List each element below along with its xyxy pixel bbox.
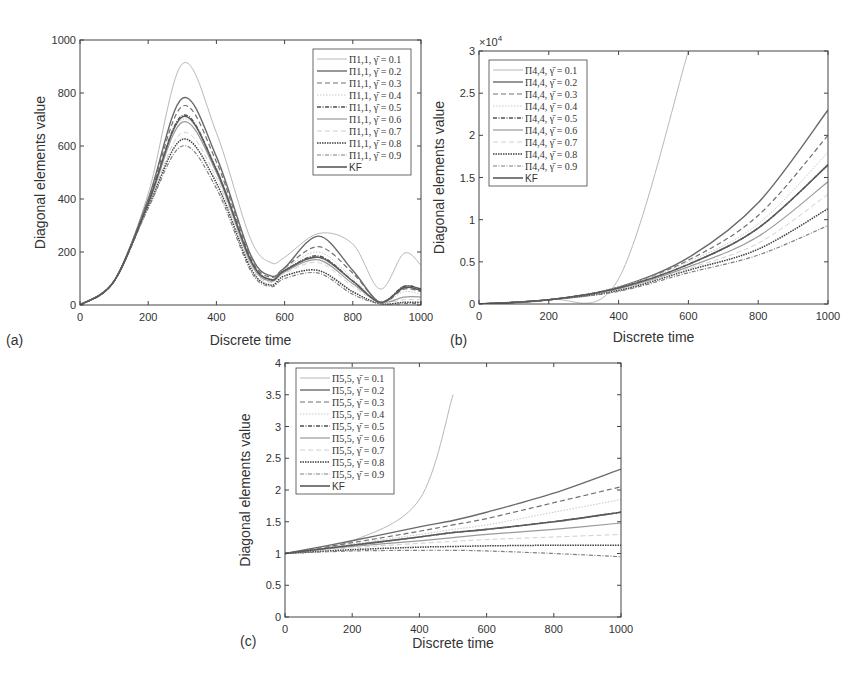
y-axis-label: Diagonal elements value	[32, 96, 48, 250]
x-axis-label: Discrete time	[412, 635, 494, 651]
legend-entry: Π5,5, γ̄ = 0.3	[332, 397, 384, 408]
y-tick-label: 400	[58, 193, 76, 205]
x-tick-label: 400	[207, 311, 225, 323]
legend-entry: Π5,5, γ̄ = 0.7	[332, 445, 384, 456]
legend-entry: Π5,5, γ̄ = 0.6	[332, 433, 384, 444]
chart-panel-c: 0200400600800100000.511.522.533.54Discre…	[237, 357, 633, 651]
y-tick-label: 600	[58, 140, 76, 152]
legend-entry: Π4,4, γ̄ = 0.9	[525, 161, 577, 172]
series-line	[285, 512, 621, 553]
y-tick-label: 0.5	[266, 579, 281, 591]
x-tick-label: 0	[77, 311, 83, 323]
x-tick-label: 800	[545, 623, 563, 635]
x-tick-label: 800	[749, 310, 767, 322]
x-tick-label: 1000	[409, 311, 433, 323]
legend-entry: Π5,5, γ̄ = 0.9	[332, 469, 384, 480]
x-tick-label: 0	[476, 310, 482, 322]
legend-entry: Π4,4, γ̄ = 0.1	[525, 65, 577, 76]
legend-entry: Π5,5, γ̄ = 0.4	[332, 409, 384, 420]
y-exponent-label: ×104	[479, 34, 503, 48]
x-tick-label: 600	[477, 623, 495, 635]
series-line	[479, 194, 828, 304]
legend-entry: Π4,4, γ̄ = 0.4	[525, 101, 577, 112]
legend-entry: Π4,4, γ̄ = 0.7	[525, 137, 577, 148]
legend-entry: Π4,4, γ̄ = 0.8	[525, 149, 577, 160]
legend-entry: KF	[525, 173, 538, 184]
figure-canvas: 0200400600800100002004006008001000Discre…	[0, 0, 857, 682]
x-tick-label: 1000	[816, 310, 840, 322]
legend-entry: Π1,1, γ̄ = 0.6	[349, 114, 401, 125]
x-tick-label: 400	[410, 623, 428, 635]
legend-entry: Π4,4, γ̄ = 0.6	[525, 125, 577, 136]
legend-entry: Π1,1, γ̄ = 0.5	[349, 102, 401, 113]
panel-label: (a)	[6, 332, 23, 348]
x-tick-label: 800	[344, 311, 362, 323]
legend-entry: Π5,5, γ̄ = 0.5	[332, 421, 384, 432]
panel-label: (c)	[240, 633, 256, 649]
y-tick-label: 3	[469, 45, 475, 57]
panel-label: (b)	[450, 332, 467, 348]
legend-entry: Π1,1, γ̄ = 0.4	[349, 90, 401, 101]
y-tick-label: 0	[469, 298, 475, 310]
y-tick-label: 2.5	[266, 452, 281, 464]
y-tick-label: 0	[275, 611, 281, 623]
y-tick-label: 2	[275, 484, 281, 496]
series-line	[285, 550, 621, 556]
legend-entry: Π5,5, γ̄ = 0.2	[332, 385, 384, 396]
y-tick-label: 3.5	[266, 389, 281, 401]
x-tick-label: 600	[275, 311, 293, 323]
legend-entry: Π1,1, γ̄ = 0.3	[349, 78, 401, 89]
legend: Π4,4, γ̄ = 0.1Π4,4, γ̄ = 0.2Π4,4, γ̄ = 0…	[489, 60, 587, 186]
legend-entry: Π1,1, γ̄ = 0.7	[349, 126, 401, 137]
y-tick-label: 200	[58, 246, 76, 258]
legend: Π1,1, γ̄ = 0.1Π1,1, γ̄ = 0.2Π1,1, γ̄ = 0…	[313, 49, 411, 175]
y-tick-label: 0	[70, 299, 76, 311]
x-tick-label: 1000	[609, 623, 633, 635]
x-axis-label: Discrete time	[613, 329, 695, 345]
y-tick-label: 1	[275, 548, 281, 560]
y-axis-label: Diagonal elements value	[237, 413, 253, 567]
legend-entry: Π1,1, γ̄ = 0.2	[349, 66, 401, 77]
x-tick-label: 0	[282, 623, 288, 635]
y-tick-label: 1	[469, 214, 475, 226]
legend-entry: Π5,5, γ̄ = 0.8	[332, 457, 384, 468]
x-tick-label: 200	[540, 310, 558, 322]
y-tick-label: 1000	[52, 34, 76, 46]
chart-panel-b: 0200400600800100000.511.522.53×104Discre…	[431, 34, 840, 348]
x-tick-label: 200	[343, 623, 361, 635]
y-tick-label: 4	[275, 357, 281, 369]
y-tick-label: 0.5	[460, 256, 475, 268]
y-tick-label: 800	[58, 87, 76, 99]
legend-entry: Π4,4, γ̄ = 0.3	[525, 89, 577, 100]
series-line	[479, 209, 828, 304]
legend: Π5,5, γ̄ = 0.1Π5,5, γ̄ = 0.2Π5,5, γ̄ = 0…	[296, 368, 394, 494]
legend-entry: Π1,1, γ̄ = 0.9	[349, 150, 401, 161]
chart-panel-a: 0200400600800100002004006008001000Discre…	[6, 34, 433, 348]
legend-entry: Π1,1, γ̄ = 0.1	[349, 54, 401, 65]
x-tick-label: 400	[609, 310, 627, 322]
y-axis-label: Diagonal elements value	[431, 101, 447, 255]
legend-entry: Π5,5, γ̄ = 0.1	[332, 373, 384, 384]
series-line	[479, 182, 828, 304]
y-tick-label: 2	[469, 129, 475, 141]
legend-entry: Π4,4, γ̄ = 0.5	[525, 113, 577, 124]
y-tick-label: 1.5	[460, 172, 475, 184]
y-tick-label: 2.5	[460, 87, 475, 99]
legend-entry: KF	[349, 162, 362, 173]
y-tick-label: 3	[275, 421, 281, 433]
series-line	[479, 226, 828, 304]
legend-entry: KF	[332, 481, 345, 492]
y-tick-label: 1.5	[266, 516, 281, 528]
x-tick-label: 600	[679, 310, 697, 322]
x-axis-label: Discrete time	[210, 332, 292, 348]
legend-entry: Π1,1, γ̄ = 0.8	[349, 138, 401, 149]
legend-entry: Π4,4, γ̄ = 0.2	[525, 77, 577, 88]
x-tick-label: 200	[139, 311, 157, 323]
